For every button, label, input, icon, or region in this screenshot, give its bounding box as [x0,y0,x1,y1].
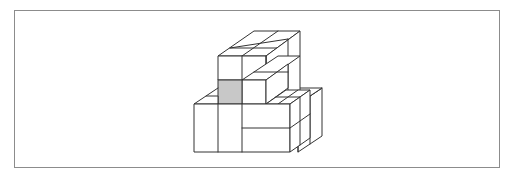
left-front-top [194,88,218,104]
shaded-face [218,80,242,104]
cube-stack-diagram [0,0,519,182]
